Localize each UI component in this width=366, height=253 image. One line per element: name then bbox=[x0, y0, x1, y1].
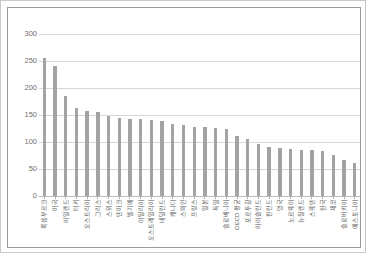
x-label-slot: 터키 bbox=[71, 199, 82, 253]
bar-series bbox=[39, 34, 360, 196]
x-tick-label: 독일 bbox=[213, 199, 219, 211]
bar-slot bbox=[146, 34, 157, 196]
x-tick-label: 그리스 bbox=[95, 199, 101, 217]
x-tick-label: 에스토니아 bbox=[352, 199, 358, 229]
bar[interactable] bbox=[321, 151, 324, 196]
bar[interactable] bbox=[43, 58, 46, 196]
x-label-slot: 아이슬란드 bbox=[253, 199, 264, 253]
x-label-slot: 프랑스 bbox=[189, 199, 200, 253]
x-label-slot: 뉴질랜드 bbox=[296, 199, 307, 253]
bar[interactable] bbox=[332, 155, 335, 196]
x-label-slot: 영국 bbox=[274, 199, 285, 253]
bar-slot bbox=[39, 34, 50, 196]
bar[interactable] bbox=[118, 118, 121, 196]
x-label-slot: 오스트리아 bbox=[82, 199, 93, 253]
bar[interactable] bbox=[278, 148, 281, 196]
x-tick-label: 덴마크 bbox=[116, 199, 122, 217]
x-tick-label: 벨기에 bbox=[127, 199, 133, 217]
bar-slot bbox=[349, 34, 360, 196]
x-label-slot: 이탈리아 bbox=[135, 199, 146, 253]
bar[interactable] bbox=[150, 120, 153, 196]
x-tick-label: 오스트레일리아 bbox=[148, 199, 154, 241]
bar[interactable] bbox=[171, 124, 174, 196]
bar-slot bbox=[232, 34, 243, 196]
x-label-slot: 에스토니아 bbox=[349, 199, 360, 253]
x-label-slot: 미국 bbox=[50, 199, 61, 253]
x-tick-label: 아이슬란드 bbox=[255, 199, 261, 229]
bar[interactable] bbox=[235, 136, 238, 196]
bar-slot bbox=[339, 34, 350, 196]
bar-slot bbox=[135, 34, 146, 196]
bar-slot bbox=[242, 34, 253, 196]
x-label-slot: 스위스 bbox=[103, 199, 114, 253]
x-label-slot: 한국 bbox=[317, 199, 328, 253]
bar[interactable] bbox=[342, 160, 345, 196]
x-tick-label: 노르웨이 bbox=[288, 199, 294, 223]
x-label-slot: 그리스 bbox=[93, 199, 104, 253]
bar[interactable] bbox=[85, 111, 88, 196]
x-label-slot: 일본 bbox=[200, 199, 211, 253]
x-axis-labels: 룩셈부르크미국아일랜드터키오스트리아그리스스위스덴마크벨기에이탈리아오스트레일리… bbox=[39, 199, 360, 253]
y-tick-label: 250 bbox=[11, 57, 37, 65]
y-axis-labels: 050100150200250300 bbox=[8, 34, 37, 196]
chart-plot-border: 050100150200250300 룩셈부르크미국아일랜드터키오스트리아그리스… bbox=[7, 7, 361, 248]
x-label-slot: 포르투갈 bbox=[242, 199, 253, 253]
bar[interactable] bbox=[267, 147, 270, 196]
bar-slot bbox=[114, 34, 125, 196]
x-label-slot: 슬로베니아 bbox=[221, 199, 232, 253]
x-label-slot: 덴마크 bbox=[114, 199, 125, 253]
bar-slot bbox=[71, 34, 82, 196]
bar-slot bbox=[60, 34, 71, 196]
bar[interactable] bbox=[96, 112, 99, 196]
bar-slot bbox=[328, 34, 339, 196]
x-label-slot: 오스트레일리아 bbox=[146, 199, 157, 253]
x-tick-label: OECD 평균 bbox=[234, 199, 240, 230]
bar[interactable] bbox=[246, 139, 249, 196]
x-tick-label: 한국 bbox=[320, 199, 326, 211]
x-tick-label: 체코 bbox=[330, 199, 336, 211]
bar-slot bbox=[307, 34, 318, 196]
bar[interactable] bbox=[193, 127, 196, 196]
x-tick-label: 터키 bbox=[73, 199, 79, 211]
y-tick-label: 100 bbox=[11, 138, 37, 146]
x-label-slot: 노르웨이 bbox=[285, 199, 296, 253]
bar[interactable] bbox=[225, 129, 228, 197]
bar[interactable] bbox=[257, 144, 260, 196]
bar[interactable] bbox=[139, 119, 142, 196]
x-label-slot: 네덜란드 bbox=[157, 199, 168, 253]
x-tick-label: 아일랜드 bbox=[63, 199, 69, 223]
bar[interactable] bbox=[53, 66, 56, 196]
bar-slot bbox=[167, 34, 178, 196]
bar-slot bbox=[285, 34, 296, 196]
bar-slot bbox=[200, 34, 211, 196]
bar[interactable] bbox=[353, 163, 356, 196]
x-tick-label: 룩셈부르크 bbox=[41, 199, 47, 229]
x-tick-label: 뉴질랜드 bbox=[298, 199, 304, 223]
bar[interactable] bbox=[182, 125, 185, 196]
bar-slot bbox=[264, 34, 275, 196]
x-tick-label: 미국 bbox=[52, 199, 58, 211]
bar[interactable] bbox=[160, 121, 163, 196]
bar-slot bbox=[296, 34, 307, 196]
bar[interactable] bbox=[128, 119, 131, 196]
bar[interactable] bbox=[203, 127, 206, 196]
y-tick-label: 0 bbox=[11, 192, 37, 200]
x-label-slot: 캐나다 bbox=[167, 199, 178, 253]
bar[interactable] bbox=[75, 108, 78, 196]
x-tick-label: 스페인 bbox=[180, 199, 186, 217]
x-label-slot: 핀란드 bbox=[264, 199, 275, 253]
bar-slot bbox=[189, 34, 200, 196]
bar[interactable] bbox=[64, 96, 67, 196]
bar-slot bbox=[103, 34, 114, 196]
bar[interactable] bbox=[310, 150, 313, 196]
x-tick-label: 오스트리아 bbox=[84, 199, 90, 229]
bar-slot bbox=[93, 34, 104, 196]
bar[interactable] bbox=[214, 128, 217, 196]
bar-slot bbox=[157, 34, 168, 196]
bar-slot bbox=[125, 34, 136, 196]
bar[interactable] bbox=[300, 150, 303, 196]
bar[interactable] bbox=[107, 116, 110, 196]
x-label-slot: 슬로바키아 bbox=[339, 199, 350, 253]
x-tick-label: 이탈리아 bbox=[138, 199, 144, 223]
bar[interactable] bbox=[289, 149, 292, 196]
